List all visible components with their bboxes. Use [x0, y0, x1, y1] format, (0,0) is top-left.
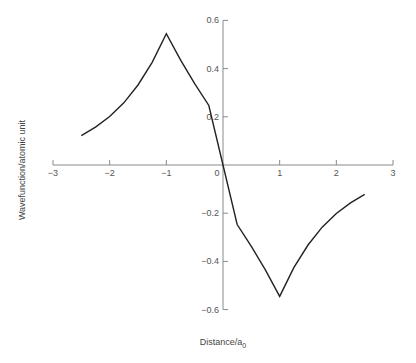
- x-tick-label: 1: [277, 168, 282, 178]
- x-tick-label: 0: [214, 168, 219, 178]
- y-axis-title: Wavefunction/atomic unit: [17, 119, 27, 220]
- x-axis-title-text: Distance/a: [200, 337, 243, 347]
- y-tick-label: −0.2: [201, 208, 219, 218]
- x-tick-label: 2: [334, 168, 339, 178]
- y-tick-label: −0.4: [201, 256, 219, 266]
- chart: −3−2−101230.60.40.2−0.2−0.4−0.6 Distance…: [0, 0, 416, 363]
- x-tick-label: 3: [390, 168, 395, 178]
- x-axis-title: Distance/a0: [200, 337, 247, 349]
- y-tick-label: 0.4: [206, 64, 219, 74]
- y-tick-label: 0.6: [206, 15, 219, 25]
- x-tick-label: −3: [48, 168, 58, 178]
- x-tick-label: −2: [105, 168, 115, 178]
- x-tick-label: −1: [161, 168, 171, 178]
- y-tick-label: −0.6: [201, 305, 219, 315]
- x-axis-title-subscript: 0: [242, 342, 246, 349]
